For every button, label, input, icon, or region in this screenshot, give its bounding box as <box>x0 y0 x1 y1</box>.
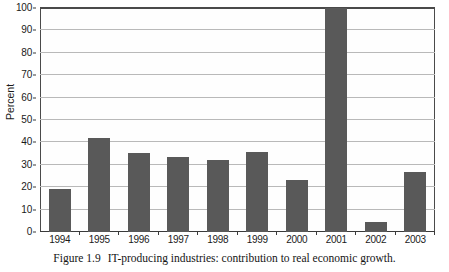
bar-series <box>40 8 435 232</box>
bar-slot <box>198 8 238 232</box>
y-tick-label: 100 <box>16 3 32 13</box>
x-tick-label-1994: 1994 <box>40 234 80 246</box>
x-tick-label-2002: 2002 <box>356 234 396 246</box>
y-tick-label: 10 <box>21 205 32 215</box>
bar-slot <box>238 8 278 232</box>
x-tick-label-1995: 1995 <box>80 234 120 246</box>
y-tick-mark <box>33 164 36 165</box>
y-tick-mark <box>33 75 36 76</box>
bar-slot <box>277 8 317 232</box>
y-tick-label: 70 <box>21 70 32 80</box>
y-tick-mark <box>33 30 36 31</box>
y-axis-tick-labels: 0102030405060708090100 <box>0 8 36 232</box>
y-tick-mark <box>33 97 36 98</box>
x-tick-label-1997: 1997 <box>159 234 199 246</box>
y-tick-label: 90 <box>21 25 32 35</box>
y-tick-mark <box>33 142 36 143</box>
y-tick-mark <box>33 52 36 53</box>
y-tick-mark <box>33 120 36 121</box>
bar-1995[interactable] <box>88 138 110 232</box>
bar-2003[interactable] <box>404 172 426 232</box>
y-tick-mark <box>33 187 36 188</box>
bar-slot <box>40 8 80 232</box>
y-tick-label: 20 <box>21 182 32 192</box>
x-tick-label-1998: 1998 <box>198 234 238 246</box>
bar-slot <box>356 8 396 232</box>
y-tick-label: 0 <box>27 227 32 237</box>
bar-1999[interactable] <box>246 152 268 232</box>
y-tick-label: 60 <box>21 93 32 103</box>
y-tick-label: 30 <box>21 160 32 170</box>
bar-1996[interactable] <box>128 153 150 232</box>
bar-2001[interactable] <box>325 8 347 232</box>
bar-slot <box>80 8 120 232</box>
bar-slot <box>159 8 199 232</box>
bar-slot <box>317 8 357 232</box>
figure-caption-text: IT-producing industries: contribution to… <box>108 252 396 264</box>
y-tick-mark <box>33 209 36 210</box>
y-tick-label: 50 <box>21 115 32 125</box>
figure-caption-label: Figure 1.9 <box>53 252 100 264</box>
bar-1994[interactable] <box>49 189 71 232</box>
bar-1997[interactable] <box>167 157 189 232</box>
y-tick-label: 80 <box>21 48 32 58</box>
bar-slot <box>119 8 159 232</box>
x-tick-label-1999: 1999 <box>238 234 278 246</box>
bar-2002[interactable] <box>365 222 387 232</box>
bar-slot <box>396 8 436 232</box>
y-tick-label: 40 <box>21 137 32 147</box>
x-tick-label-2000: 2000 <box>277 234 317 246</box>
y-tick-mark <box>33 232 36 233</box>
y-tick-mark <box>33 8 36 9</box>
figure-caption: Figure 1.9IT-producing industries: contr… <box>0 251 449 265</box>
x-tick-label-2001: 2001 <box>317 234 357 246</box>
x-tick-label-2003: 2003 <box>396 234 436 246</box>
x-tick-label-1996: 1996 <box>119 234 159 246</box>
bar-2000[interactable] <box>286 180 308 232</box>
x-axis-tick-labels: 1994199519961997199819992000200120022003 <box>40 234 435 246</box>
plot-area <box>40 8 435 232</box>
bar-1998[interactable] <box>207 160 229 232</box>
figure-container: Percent 0102030405060708090100 199419951… <box>0 0 449 272</box>
